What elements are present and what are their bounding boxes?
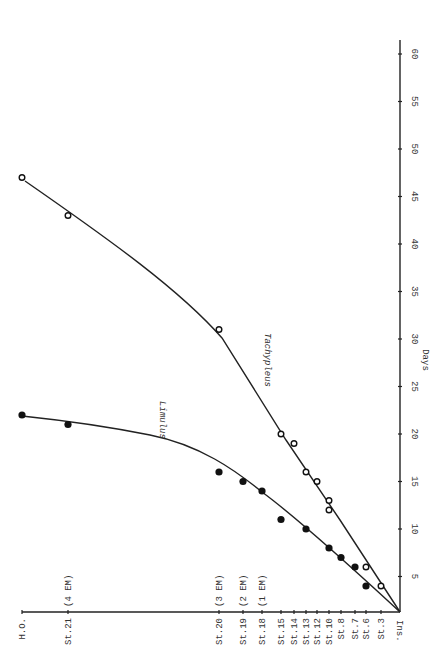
- stage-tick-label: St.7: [351, 618, 361, 640]
- tachypleus-point: [216, 327, 222, 333]
- limulus-point: [302, 525, 309, 532]
- limulus-label: Limulus: [157, 401, 167, 439]
- tachypleus-point: [363, 564, 369, 570]
- limulus-point: [337, 554, 344, 561]
- day-tick-label: 35: [409, 286, 419, 297]
- tachypleus-point: [314, 479, 320, 485]
- stage-note-label: (2 EM): [239, 575, 249, 607]
- tachypleus-curve: [25, 181, 400, 612]
- limulus-curve: [22, 416, 400, 612]
- day-tick-label: 60: [409, 49, 419, 60]
- limulus-point: [325, 544, 332, 551]
- limulus-point: [362, 582, 369, 589]
- limulus-point: [215, 468, 222, 475]
- day-tick-label: 40: [409, 239, 419, 250]
- day-tick-label: 30: [409, 334, 419, 345]
- stage-tick-label: St.14: [290, 618, 300, 645]
- stage-note-label: (4 EM): [64, 575, 74, 607]
- tachypleus-point: [65, 213, 71, 219]
- day-tick-label: 50: [409, 144, 419, 155]
- tachypleus-point: [278, 431, 284, 437]
- stage-tick-label: St.15: [277, 618, 287, 645]
- tachypleus-point: [326, 498, 332, 504]
- day-tick-label: 5: [409, 574, 419, 579]
- day-tick-label: 25: [409, 381, 419, 392]
- limulus-point: [64, 421, 71, 428]
- tachypleus-point: [303, 469, 309, 475]
- day-tick-label: 10: [409, 524, 419, 535]
- day-tick-label: 15: [409, 476, 419, 487]
- stage-tick-label: St.18: [258, 618, 268, 645]
- stage-tick-label: St.10: [325, 618, 335, 645]
- stage-tick-label: St.20: [215, 618, 225, 645]
- tachypleus-point: [378, 583, 384, 589]
- tachypleus-point: [291, 441, 297, 447]
- origin-label: Ins.: [394, 620, 404, 642]
- stage-tick-label: St.21: [64, 618, 74, 645]
- stage-tick-label: St.8: [337, 618, 347, 640]
- stage-tick-label: St.12: [313, 618, 323, 645]
- limulus-point: [258, 487, 265, 494]
- stage-note-label: (1 EM): [258, 575, 268, 607]
- day-tick-label: 55: [409, 96, 419, 107]
- limulus-point: [18, 411, 25, 418]
- stage-tick-label: St.6: [362, 618, 372, 640]
- tachypleus-label: Tachypleus: [262, 333, 272, 387]
- limulus-point: [239, 478, 246, 485]
- day-tick-label: 45: [409, 191, 419, 202]
- stage-vs-days-chart: 51015202530354045505560DaysIns.St.3St.6S…: [0, 0, 445, 662]
- stage-note-label: (3 EM): [215, 575, 225, 607]
- day-tick-label: 20: [409, 429, 419, 440]
- limulus-point: [351, 563, 358, 570]
- stage-tick-label: St.13: [302, 618, 312, 645]
- stage-tick-label: St.3: [377, 618, 387, 640]
- limulus-point: [277, 516, 284, 523]
- stage-tick-label: St.19: [239, 618, 249, 645]
- tachypleus-point: [326, 507, 332, 513]
- stage-tick-label: H.O.: [18, 618, 28, 640]
- tachypleus-point: [19, 175, 25, 181]
- days-axis-title: Days: [420, 349, 430, 371]
